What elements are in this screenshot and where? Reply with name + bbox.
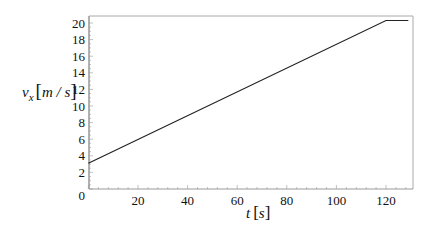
y-tick-label: 16 [72,49,86,64]
x-tick-label: 80 [280,193,293,208]
y-tick-label: 14 [72,65,86,80]
x-tick-label: 120 [376,193,396,208]
plot-frame [89,16,413,189]
y-tick-label: 2 [79,165,86,180]
x-tick-label: 100 [327,193,347,208]
x-axis-label: t[s] [246,203,270,222]
x-tick-label: 40 [181,193,194,208]
x-axis-var: t [246,205,251,221]
velocity-time-chart: 02468101214161820 20406080100120 vx[m / … [0,0,436,230]
plot-border [89,16,413,189]
y-tick-label: 18 [72,32,85,47]
x-tick-label: 20 [132,193,145,208]
data-series [88,21,408,164]
y-axis-unit: m / s [42,84,71,100]
y-axis-label: vx[m / s] [22,80,77,103]
velocity-line [88,21,408,164]
y-axis-ticks: 02468101214161820 [72,16,93,204]
y-tick-label: 8 [79,115,86,130]
x-tick-label: 60 [231,193,244,208]
y-tick-label: 20 [72,16,85,31]
y-tick-label: 4 [79,148,86,163]
y-tick-label: 0 [79,188,86,203]
y-axis-subscript: x [28,91,34,103]
y-tick-label: 6 [79,132,86,147]
